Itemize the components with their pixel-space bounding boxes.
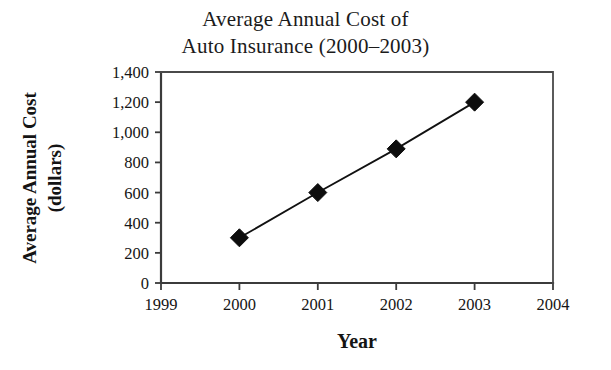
x-tick-label: 2001: [301, 295, 334, 314]
y-tick-label: 1,400: [112, 63, 149, 82]
y-axis-ticks: 02004006008001,0001,2001,400: [112, 63, 161, 293]
y-tick-label: 400: [124, 214, 149, 233]
data-point-marker: [387, 140, 405, 158]
x-tick-label: 1999: [145, 295, 178, 314]
y-tick-label: 1,000: [112, 123, 149, 142]
data-point-marker: [466, 93, 484, 111]
y-tick-label: 800: [124, 153, 149, 172]
x-axis-ticks: 199920002001200220032004: [145, 283, 570, 314]
y-tick-label: 0: [141, 274, 149, 293]
plot-area: 02004006008001,0001,2001,400 19992000200…: [0, 0, 611, 370]
y-tick-label: 1,200: [112, 93, 149, 112]
data-series: [239, 102, 474, 238]
data-point-marker: [230, 229, 248, 247]
plot-frame: [161, 72, 553, 283]
chart-figure: Average Annual Cost of Auto Insurance (2…: [0, 0, 611, 370]
y-tick-label: 200: [124, 244, 149, 263]
x-tick-label: 2004: [537, 295, 570, 314]
x-tick-label: 2000: [223, 295, 256, 314]
x-tick-label: 2003: [458, 295, 491, 314]
data-point-marker: [309, 184, 327, 202]
x-tick-label: 2002: [380, 295, 413, 314]
y-tick-label: 600: [124, 184, 149, 203]
